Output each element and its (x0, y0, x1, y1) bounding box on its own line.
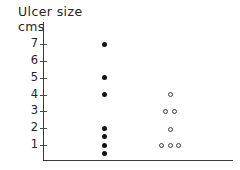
x-axis-line (43, 160, 233, 161)
data-point-group-2-open-6 (176, 143, 181, 148)
y-axis-label: cms (18, 19, 45, 34)
y-tick-label-4: 4 (14, 89, 38, 101)
data-point-group-1-filled-6 (102, 151, 107, 156)
y-tick-1 (40, 145, 47, 146)
data-point-group-2-open-5 (168, 143, 173, 148)
dot-plot-figure: Ulcer size cms 1234567 (0, 0, 240, 170)
y-tick-label-7: 7 (14, 38, 38, 50)
y-tick-label-3: 3 (14, 105, 38, 117)
data-point-group-1-filled-4 (102, 134, 107, 139)
data-point-group-2-open-0 (168, 92, 173, 97)
y-tick-3 (40, 111, 47, 112)
y-tick-2 (40, 128, 47, 129)
y-tick-label-1: 1 (14, 139, 38, 151)
data-point-group-2-open-4 (159, 143, 164, 148)
data-point-group-2-open-1 (163, 109, 168, 114)
y-tick-label-2: 2 (14, 122, 38, 134)
y-tick-5 (40, 78, 47, 79)
data-point-group-2-open-2 (172, 109, 177, 114)
y-tick-6 (40, 61, 47, 62)
data-point-group-1-filled-2 (102, 92, 107, 97)
y-tick-label-6: 6 (14, 55, 38, 67)
data-point-group-2-open-3 (168, 127, 173, 132)
y-axis-line (43, 22, 44, 161)
data-point-group-1-filled-1 (102, 75, 107, 80)
y-tick-label-5: 5 (14, 72, 38, 84)
y-tick-7 (40, 44, 47, 45)
data-point-group-1-filled-5 (102, 143, 107, 148)
data-point-group-1-filled-0 (102, 42, 107, 47)
page-title: Ulcer size (18, 4, 83, 19)
data-point-group-1-filled-3 (102, 126, 107, 131)
y-tick-4 (40, 95, 47, 96)
